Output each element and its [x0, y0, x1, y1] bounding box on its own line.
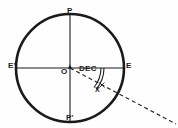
- label-center-o: O: [61, 68, 67, 76]
- label-equator-west: E': [8, 62, 16, 70]
- label-star-x: X: [95, 86, 100, 93]
- diagram-canvas: P P' E' E O DEC X: [0, 0, 178, 128]
- label-south-pole: P': [66, 114, 74, 122]
- point-x-marker: [100, 83, 105, 88]
- label-declination: DEC: [79, 65, 97, 73]
- label-equator-east: E: [126, 62, 132, 70]
- label-north-pole: P: [67, 7, 73, 15]
